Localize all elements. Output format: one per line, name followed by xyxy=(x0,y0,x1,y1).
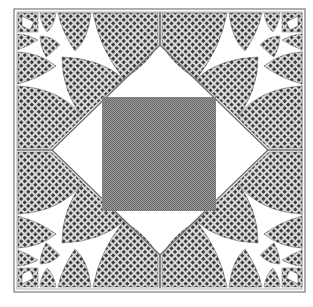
center-square xyxy=(102,97,216,211)
fractal-figure xyxy=(0,0,313,307)
